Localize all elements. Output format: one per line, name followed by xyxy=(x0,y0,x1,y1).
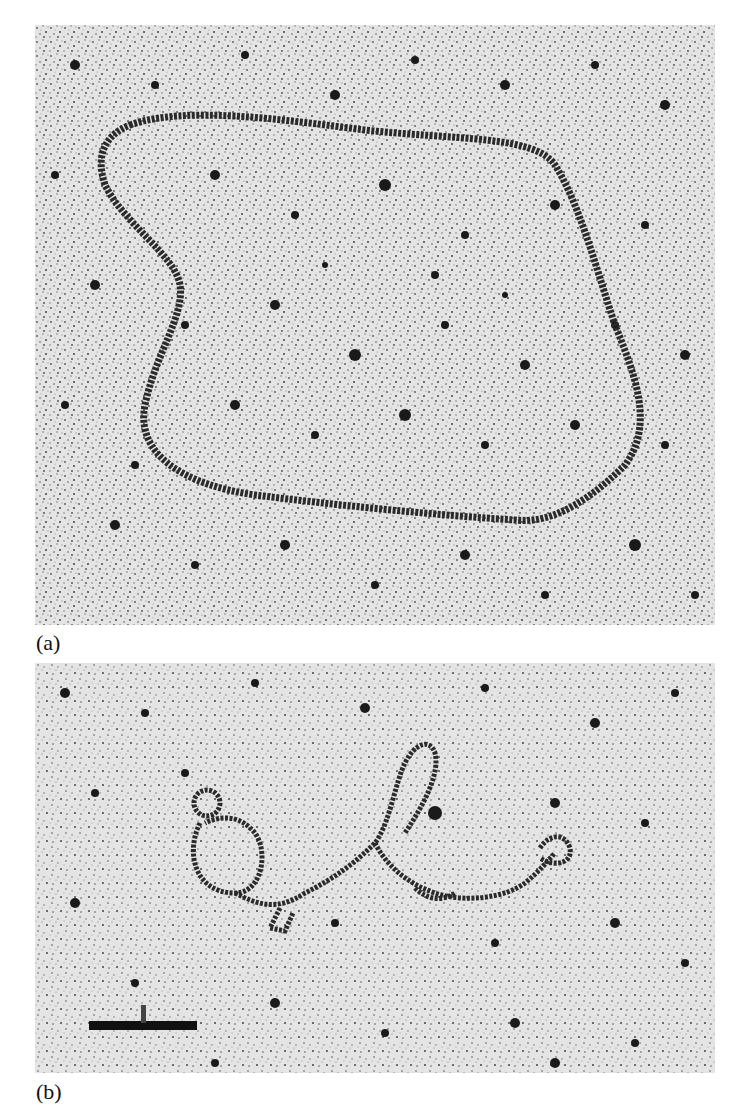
micrograph-b-image xyxy=(35,663,715,1073)
panel-label-b: (b) xyxy=(36,1081,62,1103)
micrograph-a-image xyxy=(35,25,715,625)
panel-label-a: (a) xyxy=(36,632,60,654)
micrograph-panel-a xyxy=(35,25,715,625)
micrograph-panel-b xyxy=(35,663,715,1073)
